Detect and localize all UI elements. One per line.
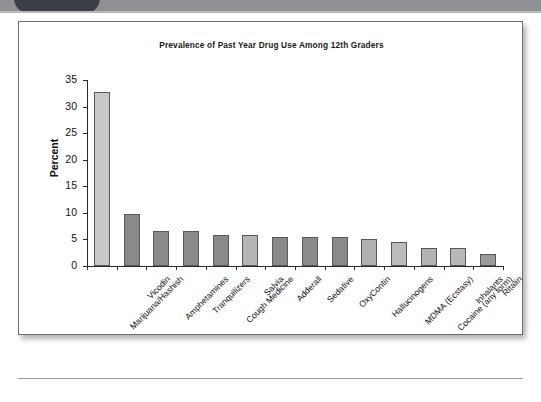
- y-tick-label: 0: [51, 259, 77, 271]
- x-axis-category-label: Sedative: [325, 274, 356, 305]
- y-tick: 25: [83, 133, 87, 134]
- plot-area: 05101520253035 Percent Marijuana/Hashish…: [87, 80, 503, 266]
- y-tick: 30: [83, 107, 87, 108]
- x-axis-category-label: Adderall: [294, 274, 323, 303]
- bar: [391, 242, 407, 266]
- page-header-band: [0, 0, 541, 13]
- bar: [242, 235, 258, 266]
- bar: [450, 248, 466, 266]
- y-tick: 20: [83, 160, 87, 161]
- y-tick-label: 35: [51, 73, 77, 85]
- y-tick-label: 10: [51, 206, 77, 218]
- bar: [183, 231, 199, 266]
- y-tick: 5: [83, 239, 87, 240]
- bar: [272, 237, 288, 266]
- y-tick-label: 15: [51, 179, 77, 191]
- bar: [213, 235, 229, 266]
- bar: [124, 214, 140, 266]
- y-tick: 35: [83, 80, 87, 81]
- chart-title: Prevalence of Past Year Drug Use Among 1…: [19, 40, 524, 50]
- bar: [421, 248, 437, 266]
- y-tick-label: 30: [51, 100, 77, 112]
- page-header-edge: [0, 11, 541, 13]
- y-tick: 10: [83, 213, 87, 214]
- page-bottom-rule: [18, 378, 523, 379]
- x-axis-category-label: OxyContin: [356, 274, 391, 309]
- bar: [332, 237, 348, 266]
- bar: [302, 237, 318, 266]
- bar: [94, 92, 110, 266]
- y-axis-line: [87, 80, 88, 266]
- bar: [480, 254, 496, 266]
- x-axis-labels: Marijuana/HashishVicodinAmphetaminesTran…: [87, 270, 503, 370]
- y-tick-label: 25: [51, 126, 77, 138]
- y-tick: 15: [83, 186, 87, 187]
- figure-box: Prevalence of Past Year Drug Use Among 1…: [18, 21, 523, 335]
- y-tick-label: 5: [51, 232, 77, 244]
- x-tick: [503, 266, 504, 270]
- bar: [361, 239, 377, 266]
- y-axis-label: Percent: [48, 139, 60, 178]
- bar: [153, 231, 169, 266]
